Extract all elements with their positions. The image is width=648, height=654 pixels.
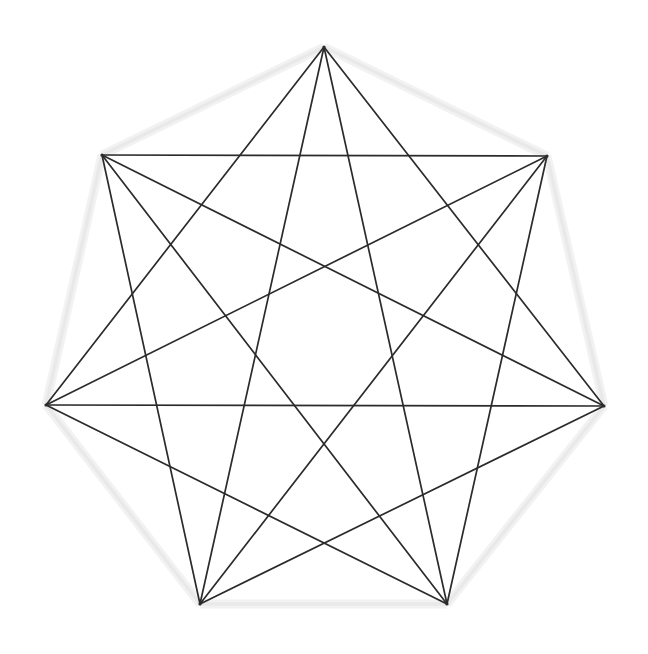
vertex-top (322, 45, 325, 48)
vertex-left (44, 403, 47, 406)
vertex-lower-right (445, 602, 448, 605)
edge-7-2-3 (102, 155, 547, 156)
vertex-upper-left (100, 153, 103, 156)
star-polygon-canvas: Heptagram {7/2} + {7/3} compound (0, 0, 648, 654)
vertex-upper-right (545, 154, 548, 157)
heptagram-figure: Heptagram {7/2} + {7/3} compound (0, 0, 648, 654)
canvas-background (0, 0, 648, 654)
edge-7-3-3 (46, 405, 604, 406)
vertex-lower-left (198, 602, 201, 605)
vertex-right (602, 404, 605, 407)
